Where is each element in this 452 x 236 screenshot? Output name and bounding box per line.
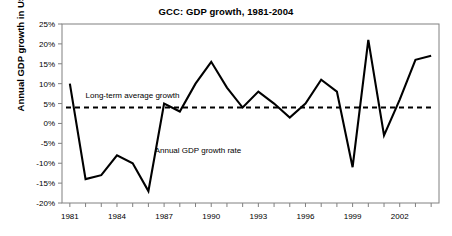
x-axis: 19811984198719901993199619992002 [61, 203, 431, 221]
chart-annotation: Long-term average growth [86, 91, 180, 100]
y-tick-label: 15% [39, 60, 55, 69]
y-tick-label: -10% [36, 159, 55, 168]
x-tick-label: 1984 [108, 212, 126, 221]
x-tick-label: 1987 [155, 212, 173, 221]
y-tick-label: 20% [39, 40, 55, 49]
y-axis: 25%20%15%10%5%0%-5%-10%-15%-20% [36, 20, 62, 208]
chart-annotation: Annual GDP growth rate [155, 146, 242, 155]
chart-figure: GCC: GDP growth, 1981-2004 Annual GDP gr… [0, 0, 452, 236]
y-tick-label: 10% [39, 80, 55, 89]
x-tick-label: 1993 [249, 212, 267, 221]
x-tick-label: 1999 [344, 212, 362, 221]
x-tick-label: 1996 [297, 212, 315, 221]
y-tick-label: -20% [36, 199, 55, 208]
y-tick-label: 0% [43, 119, 55, 128]
y-tick-label: -5% [41, 139, 55, 148]
y-tick-label: -15% [36, 179, 55, 188]
plot-area: 25%20%15%10%5%0%-5%-10%-15%-20% 19811984… [0, 0, 452, 236]
y-tick-label: 5% [43, 100, 55, 109]
y-tick-label: 25% [39, 20, 55, 29]
x-tick-label: 2002 [391, 212, 409, 221]
x-tick-label: 1990 [202, 212, 220, 221]
plot-frame [62, 24, 439, 203]
x-tick-label: 1981 [61, 212, 79, 221]
